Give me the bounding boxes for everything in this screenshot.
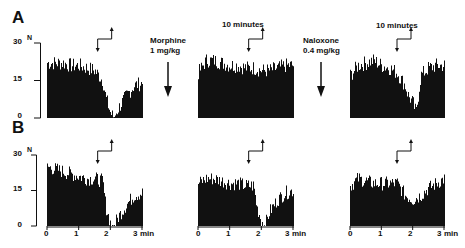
histogram-a-3 xyxy=(350,55,445,119)
stimulus-marker-icon xyxy=(96,139,114,164)
morphine-arrow-icon xyxy=(164,62,172,97)
histogram-b-3 xyxy=(350,173,445,226)
histogram-a-2 xyxy=(198,55,294,118)
histogram-b-1 xyxy=(47,163,143,226)
histogram-a-1 xyxy=(47,57,143,118)
stimulus-marker-icon xyxy=(247,139,265,164)
stimulus-marker-icon xyxy=(247,27,265,52)
histogram-canvas xyxy=(0,0,465,248)
stimulus-marker-icon xyxy=(395,139,413,164)
stimulus-marker-icon xyxy=(96,27,114,52)
stimulus-marker-icon xyxy=(395,27,413,52)
y-axis-b xyxy=(31,155,37,226)
y-axis-a xyxy=(34,43,41,118)
naloxone-arrow-icon xyxy=(317,62,325,97)
histogram-b-2 xyxy=(198,174,294,227)
